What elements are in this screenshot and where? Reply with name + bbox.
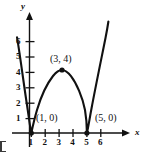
annotation-local-max: (3, 4) [50,54,72,64]
point-marker-local-max [59,67,64,72]
x-tick-label-5: 5 [84,138,89,147]
y-axis-label: y [21,2,25,11]
y-tick-label-5: 5 [16,52,21,61]
annotation-root-5: (5, 0) [95,113,117,123]
annotation-root-1: (1, 0) [36,113,58,123]
graph-figure: y x 1 2 3 4 5 6 1 2 3 4 5 6 (3, 4) (1, 0… [0,0,148,152]
x-tick-label-2: 2 [43,138,48,147]
y-tick-label-6: 6 [16,37,21,46]
coordinate-plane [0,0,148,152]
x-axis-label: x [135,128,140,137]
point-marker-root-1 [29,130,34,135]
point-marker-root-5 [84,130,89,135]
x-tick-label-1: 1 [29,138,34,147]
y-tick-label-1: 1 [16,114,21,123]
x-tick-label-6: 6 [98,138,103,147]
x-tick-label-4: 4 [70,138,75,147]
y-tick-label-4: 4 [16,68,21,77]
page-edge-artifact [0,141,6,152]
x-tick-label-3: 3 [56,138,61,147]
y-tick-label-2: 2 [16,99,21,108]
y-tick-label-3: 3 [16,83,21,92]
